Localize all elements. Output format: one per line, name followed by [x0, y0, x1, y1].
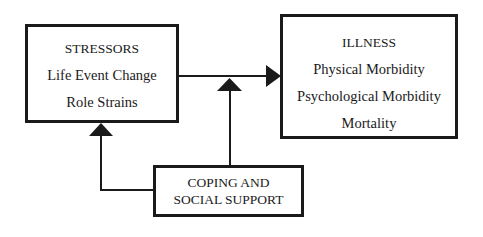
illness-item-physical-morbidity: Physical Morbidity: [283, 56, 455, 83]
coping-to-stressors-horizontal-line: [100, 189, 154, 191]
illness-item-mortality: Mortality: [283, 110, 455, 137]
coping-to-link-line: [229, 82, 231, 166]
coping-line-1: COPING AND: [156, 174, 301, 191]
illness-title: ILLNESS: [283, 29, 455, 56]
coping-line-2: SOCIAL SUPPORT: [156, 191, 301, 208]
arrowhead-up-icon: [217, 78, 242, 91]
stressors-box: STRESSORS Life Event Change Role Strains: [25, 24, 179, 123]
arrowhead-right-icon: [266, 65, 282, 87]
coping-box: COPING AND SOCIAL SUPPORT: [153, 165, 304, 217]
stressors-to-illness-line: [178, 75, 270, 77]
stressors-item-life-event-change: Life Event Change: [28, 62, 176, 89]
illness-item-psychological-morbidity: Psychological Morbidity: [283, 83, 455, 110]
coping-to-stressors-vertical-line: [100, 133, 102, 190]
stressors-item-role-strains: Role Strains: [28, 89, 176, 116]
illness-box: ILLNESS Physical Morbidity Psychological…: [280, 14, 458, 139]
stressors-title: STRESSORS: [28, 35, 176, 62]
arrowhead-up-icon: [89, 123, 113, 136]
